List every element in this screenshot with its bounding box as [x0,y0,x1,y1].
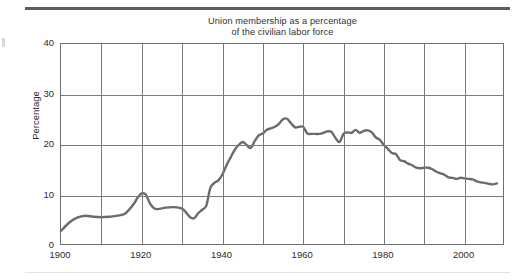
y-tick-label: 10 [28,189,54,200]
y-tick-label: 40 [28,37,54,48]
chart-page: Union membership as a percentage of the … [0,0,518,280]
gridline-vertical [223,44,224,244]
y-tick-label: 30 [28,88,54,99]
x-tick-label: 1940 [198,249,244,260]
gridline-vertical [142,44,143,244]
gridline-vertical [182,44,183,244]
x-tick-label: 1980 [360,249,406,260]
plot-area [60,43,504,245]
y-tick-label: 20 [28,138,54,149]
gridline-vertical [101,44,102,244]
x-tick-label: 1920 [118,249,164,260]
gridline-vertical [263,44,264,244]
gridline-horizontal [61,145,503,146]
top-divider-rule [25,7,510,10]
gridline-vertical [465,44,466,244]
bottom-divider-rule [25,272,510,273]
gridline-vertical [384,44,385,244]
gridline-horizontal [61,196,503,197]
x-tick-label: 2000 [441,249,487,260]
gridline-vertical [303,44,304,244]
x-tick-label: 1900 [37,249,83,260]
gridline-horizontal [61,95,503,96]
gridline-vertical [344,44,345,244]
x-tick-label: 1960 [279,249,325,260]
chart-title: Union membership as a percentage of the … [60,16,505,38]
left-margin-mark [2,38,5,47]
gridline-vertical [424,44,425,244]
series-path [61,118,497,230]
